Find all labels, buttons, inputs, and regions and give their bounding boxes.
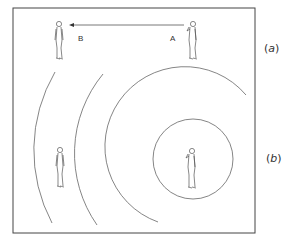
panel-label-b: (b)	[266, 152, 282, 165]
wave-arc-2	[105, 67, 246, 222]
panel-label-a: (a)	[264, 42, 279, 55]
label-a: A	[170, 34, 175, 43]
paren-close: )	[275, 42, 279, 55]
person-center-icon	[186, 148, 196, 188]
paren-close: )	[277, 152, 281, 165]
diagram-canvas	[0, 0, 298, 240]
arrow-a-to-b	[69, 23, 184, 27]
person-left-icon	[56, 147, 64, 187]
frame-border	[13, 8, 255, 233]
wave-arc-4	[34, 72, 55, 223]
label-b: B	[78, 34, 83, 43]
wave-arc-3	[74, 74, 103, 225]
person-b-icon	[55, 21, 63, 59]
wavefronts	[34, 67, 246, 225]
person-a-icon	[187, 21, 197, 59]
